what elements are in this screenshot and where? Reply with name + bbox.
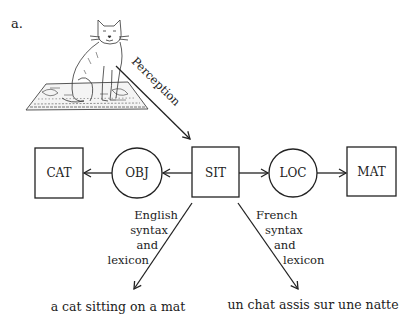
svg-text:syntax: syntax: [265, 223, 303, 237]
node-mat: MAT: [347, 147, 396, 196]
english-branch-label: English syntax and lexicon: [108, 208, 179, 267]
node-sit: SIT: [192, 147, 239, 197]
node-sit-label: SIT: [205, 166, 226, 180]
node-obj-label: OBJ: [125, 166, 149, 180]
french-output: un chat assis sur une natte: [227, 297, 398, 312]
conceptual-graph-diagram: a.: [0, 0, 412, 330]
svg-text:French: French: [256, 208, 298, 222]
mat-drawing: [26, 82, 148, 110]
panel-label: a.: [11, 16, 23, 31]
english-output: a cat sitting on a mat: [51, 299, 186, 314]
svg-text:lexicon: lexicon: [283, 253, 325, 267]
node-cat-label: CAT: [46, 166, 71, 180]
node-mat-label: MAT: [357, 165, 385, 179]
french-branch-label: French syntax and lexicon: [256, 208, 325, 267]
svg-text:lexicon: lexicon: [108, 253, 150, 267]
svg-text:and: and: [136, 238, 158, 252]
svg-text:English: English: [134, 208, 178, 222]
node-loc: LOC: [269, 149, 317, 197]
node-cat: CAT: [35, 148, 83, 198]
node-obj: OBJ: [112, 148, 162, 198]
svg-text:syntax: syntax: [130, 223, 168, 237]
node-loc-label: LOC: [280, 166, 307, 180]
cat-on-mat-illustration: [26, 20, 148, 110]
svg-text:and: and: [274, 238, 296, 252]
